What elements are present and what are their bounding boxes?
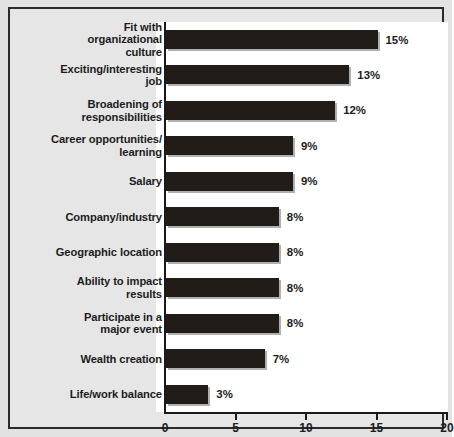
bar-and-value: 8% — [166, 314, 303, 333]
bar-category-label: Fit with organizational culture — [28, 21, 162, 59]
bar-value-label: 13% — [357, 69, 380, 81]
x-axis-tick — [376, 414, 378, 420]
x-axis-tick-label: 5 — [232, 421, 239, 435]
bar — [166, 349, 265, 368]
bar-value-label: 8% — [287, 282, 303, 294]
bar-value-label: 8% — [287, 211, 303, 223]
bar-value-label: 3% — [216, 388, 232, 400]
bar-and-value: 8% — [166, 207, 303, 226]
bar-value-label: 9% — [301, 175, 317, 187]
bar-and-value: 9% — [166, 172, 317, 191]
bar-category-label: Company/industry — [28, 211, 162, 224]
bar-row: Life/work balance3% — [20, 377, 452, 412]
bar-and-value: 9% — [166, 136, 317, 155]
bar — [166, 278, 279, 297]
bar-and-value: 8% — [166, 278, 303, 297]
bar — [166, 172, 293, 191]
bar-category-label: Wealth creation — [28, 353, 162, 366]
bar-category-label: Ability to impact results — [28, 275, 162, 300]
bar-value-label: 12% — [343, 104, 366, 116]
bar-value-label: 15% — [386, 34, 409, 46]
bar-row: Salary9% — [20, 164, 452, 199]
bar-category-label: Salary — [28, 175, 162, 188]
bar-value-label: 8% — [287, 246, 303, 258]
bar-category-label: Career opportunities/ learning — [28, 133, 162, 158]
bar-value-label: 8% — [287, 317, 303, 329]
bar-and-value: 12% — [166, 101, 366, 120]
x-axis-tick — [305, 414, 307, 420]
bar-row: Company/industry8% — [20, 199, 452, 234]
bar-category-label: Participate in a major event — [28, 311, 162, 336]
bar-row: Geographic location8% — [20, 235, 452, 270]
x-axis-tick-label: 0 — [162, 421, 169, 435]
bar — [166, 136, 293, 155]
bar-category-label: Geographic location — [28, 246, 162, 259]
bar — [166, 30, 378, 49]
bar-category-label: Life/work balance — [28, 388, 162, 401]
bar-row: Wealth creation7% — [20, 341, 452, 376]
bar-category-label: Broadening of responsibilities — [28, 98, 162, 123]
bar-and-value: 15% — [166, 30, 408, 49]
bar — [166, 65, 349, 84]
bar — [166, 385, 208, 404]
bar-row: Career opportunities/ learning9% — [20, 128, 452, 163]
bar — [166, 207, 279, 226]
x-axis-tick-label: 20 — [440, 421, 453, 435]
bar-row: Fit with organizational culture15% — [20, 22, 452, 57]
x-axis-tick-label: 10 — [299, 421, 312, 435]
bar-and-value: 8% — [166, 243, 303, 262]
bar-value-label: 9% — [301, 140, 317, 152]
x-axis-tick — [235, 414, 237, 420]
bar — [166, 314, 279, 333]
bar-category-label: Exciting/interesting job — [28, 63, 162, 88]
bar-row: Participate in a major event8% — [20, 306, 452, 341]
bar-row: Broadening of responsibilities12% — [20, 93, 452, 128]
bar-and-value: 13% — [166, 65, 380, 84]
bar-row: Ability to impact results8% — [20, 270, 452, 305]
bar-rows: Fit with organizational culture15%Exciti… — [20, 22, 452, 412]
x-axis-tick-label: 15 — [370, 421, 383, 435]
figure-border-frame: Fit with organizational culture15%Exciti… — [8, 7, 444, 429]
bar — [166, 101, 335, 120]
bar-value-label: 7% — [273, 353, 289, 365]
x-axis-ticks: 05101520 — [20, 414, 452, 437]
x-axis-tick — [446, 414, 448, 420]
bar — [166, 243, 279, 262]
bar-row: Exciting/interesting job13% — [20, 57, 452, 92]
bar-chart: Fit with organizational culture15%Exciti… — [20, 18, 452, 436]
bar-and-value: 7% — [166, 349, 289, 368]
bar-and-value: 3% — [166, 385, 233, 404]
